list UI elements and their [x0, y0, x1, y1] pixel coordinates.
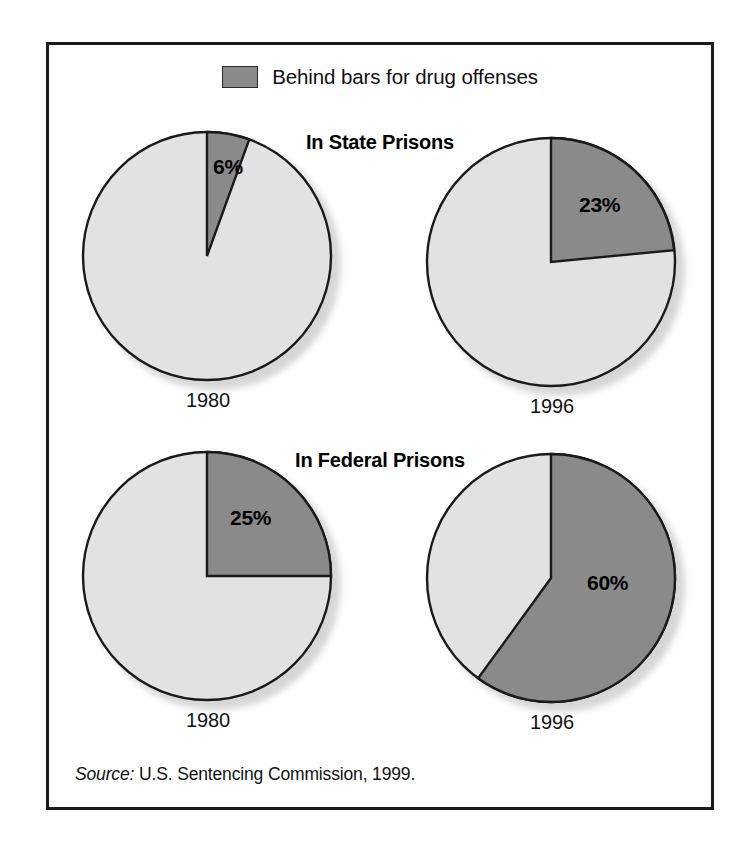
source-label: Source: [75, 764, 134, 784]
pie-cell-state-1996: 23% 1996 [407, 129, 697, 429]
pie-value-state-1996: 23% [579, 193, 620, 217]
pie-value-state-1980: 6% [213, 155, 243, 179]
pie-svg-federal-1996 [424, 451, 680, 707]
year-label-federal-1980: 1980 [63, 709, 353, 732]
pie-chart-state-1980: 6% [80, 129, 336, 385]
pie-chart-state-1996: 23% [424, 135, 680, 391]
figure-frame: Behind bars for drug offenses In State P… [46, 42, 714, 810]
year-label-federal-1996: 1996 [407, 711, 697, 734]
pie-chart-federal-1996: 60% [424, 451, 680, 707]
source-text: U.S. Sentencing Commission, 1999. [139, 764, 415, 784]
pie-cell-federal-1996: 60% 1996 [407, 445, 697, 745]
pie-cell-federal-1980: 25% 1980 [63, 443, 353, 743]
chart-legend: Behind bars for drug offenses [49, 65, 711, 89]
legend-swatch-icon [222, 66, 258, 88]
legend-label: Behind bars for drug offenses [272, 65, 538, 89]
pie-svg-federal-1980 [80, 449, 336, 705]
pie-svg-state-1996 [424, 135, 680, 391]
year-label-state-1996: 1996 [407, 395, 697, 418]
pie-cell-state-1980: 6% 1980 [63, 123, 353, 423]
pie-value-federal-1996: 60% [587, 571, 628, 595]
pie-chart-federal-1980: 25% [80, 449, 336, 705]
pie-svg-state-1980 [80, 129, 336, 385]
source-note: Source: U.S. Sentencing Commission, 1999… [75, 764, 415, 785]
year-label-state-1980: 1980 [63, 389, 353, 412]
pie-value-federal-1980: 25% [230, 506, 271, 530]
